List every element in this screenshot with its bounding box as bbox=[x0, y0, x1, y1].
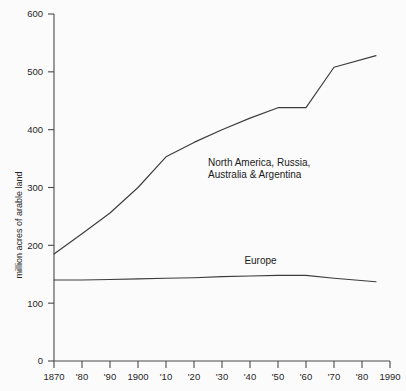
x-tick-label: '10 bbox=[160, 371, 172, 382]
x-tick-label: '70 bbox=[328, 371, 340, 382]
x-tick-label: '50 bbox=[272, 371, 284, 382]
x-tick-label: 1990 bbox=[379, 371, 400, 382]
y-tick-label: 400 bbox=[27, 124, 43, 135]
line-chart: 0100200300400500600 million acres of ara… bbox=[0, 0, 406, 391]
y-tick-label: 200 bbox=[27, 240, 43, 251]
x-tick-label: '80 bbox=[76, 371, 88, 382]
series-annotation-label: Australia & Argentina bbox=[208, 169, 302, 180]
y-tick-label: 500 bbox=[27, 66, 43, 77]
chart-background bbox=[0, 0, 406, 391]
x-tick-label: '30 bbox=[216, 371, 228, 382]
y-tick-label: 300 bbox=[27, 182, 43, 193]
series-annotation-label: North America, Russia, bbox=[208, 157, 310, 168]
chart-container: 0100200300400500600 million acres of ara… bbox=[0, 0, 406, 391]
series-annotation-label: Europe bbox=[244, 255, 277, 266]
x-tick-label: 1900 bbox=[127, 371, 148, 382]
x-tick-label: '90 bbox=[104, 371, 116, 382]
x-tick-label: '60 bbox=[300, 371, 312, 382]
y-tick-label: 100 bbox=[27, 298, 43, 309]
y-tick-label: 0 bbox=[38, 355, 43, 366]
y-tick-label: 600 bbox=[27, 8, 43, 19]
x-tick-label: '40 bbox=[244, 371, 256, 382]
x-tick-label: '20 bbox=[188, 371, 200, 382]
y-axis-title: million acres of arable land bbox=[14, 171, 24, 278]
x-tick-label: '80 bbox=[356, 371, 368, 382]
x-tick-label: 1870 bbox=[43, 371, 64, 382]
